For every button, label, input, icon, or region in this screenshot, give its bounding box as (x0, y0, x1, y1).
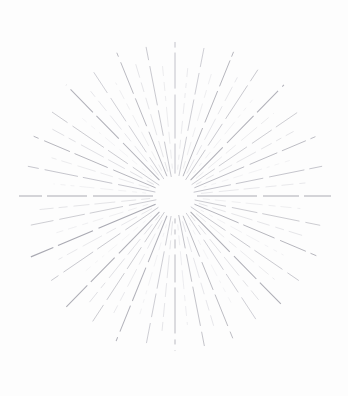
artwork-canvas: Sunburst Ray Pattern Radiating dashed li… (0, 0, 348, 396)
background-rect (0, 0, 348, 396)
sunburst-figure (0, 0, 348, 396)
